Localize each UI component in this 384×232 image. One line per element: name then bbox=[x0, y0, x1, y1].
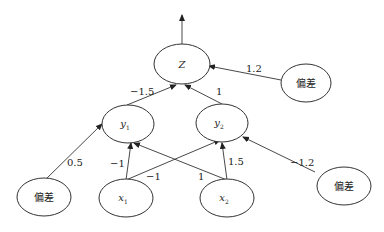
weight-bias-top-z: 1.2 bbox=[246, 63, 262, 74]
node-x1-sub: 1 bbox=[124, 198, 128, 205]
edge-x1-y1 bbox=[126, 143, 131, 180]
weight-bias-right-y2: −1.2 bbox=[290, 157, 314, 168]
neural-network-diagram: −1.5 1 1.2 0.5 −1 −1 1 1.5 −1.2 Z y1 y2 … bbox=[0, 0, 384, 232]
weight-x1-y2: −1 bbox=[146, 171, 161, 182]
node-z-label: Z bbox=[178, 59, 187, 70]
node-y1-sub: 1 bbox=[126, 124, 130, 131]
weight-x1-y1: −1 bbox=[110, 158, 125, 169]
node-x2-sub: 2 bbox=[225, 198, 229, 205]
weight-y2-z: 1 bbox=[216, 86, 222, 97]
weight-x2-y1: 1 bbox=[198, 171, 204, 182]
node-y2-sub: 2 bbox=[220, 123, 224, 130]
node-bias-left-label: 偏差 bbox=[34, 191, 54, 203]
node-bias-top: 偏差 bbox=[281, 64, 331, 102]
node-y2: y2 bbox=[196, 104, 248, 142]
node-bias-top-label: 偏差 bbox=[296, 77, 316, 89]
weight-x2-y2: 1.5 bbox=[228, 156, 244, 167]
node-x1: x1 bbox=[99, 179, 153, 217]
node-y1: y1 bbox=[102, 105, 154, 143]
node-z: Z bbox=[154, 44, 210, 84]
node-bias-left: 偏差 bbox=[17, 178, 71, 216]
weight-y1-z: −1.5 bbox=[130, 86, 154, 97]
node-bias-right-label: 偏差 bbox=[334, 180, 354, 192]
node-x2: x2 bbox=[200, 179, 254, 217]
weight-bias-left-y1: 0.5 bbox=[67, 157, 83, 168]
edge-bias-top-z bbox=[209, 66, 281, 80]
edge-bias-left-y1 bbox=[45, 124, 102, 180]
node-bias-right: 偏差 bbox=[317, 167, 371, 205]
edge-x1-y2 bbox=[126, 140, 220, 180]
edge-x2-y2 bbox=[222, 143, 227, 180]
